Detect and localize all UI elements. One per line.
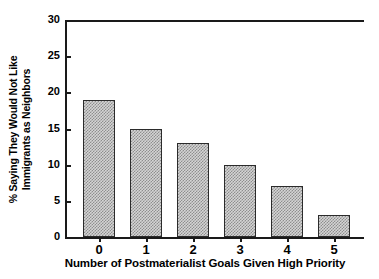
x-axis-title: Number of Postmaterialist Goals Given Hi… (40, 256, 370, 270)
y-tick-mark (65, 165, 71, 167)
bar-3 (224, 165, 256, 237)
bar-chart-figure: % Saying They Would Not Like Immigrants … (0, 0, 379, 279)
y-tick-mark (65, 20, 71, 22)
y-tick-mark (65, 201, 71, 203)
y-tick-mark (65, 92, 71, 94)
y-tick-mark (65, 129, 71, 131)
y-tick-mark (65, 237, 71, 239)
axis-spine-bottom (65, 237, 364, 239)
y-tick-label: 30 (48, 13, 60, 26)
bar-1 (130, 129, 162, 238)
bar-0 (83, 100, 115, 237)
y-tick-label: 15 (48, 122, 60, 135)
y-tick-label: 5 (54, 194, 60, 207)
y-axis-title-line-2: Immigrants as Neighbors (20, 55, 33, 203)
y-axis-title-line-1: % Saying They Would Not Like (8, 55, 21, 203)
y-tick-mark (65, 56, 71, 58)
y-tick-label: 25 (48, 49, 60, 62)
y-tick-label: 20 (48, 85, 60, 98)
bar-5 (318, 215, 350, 237)
y-tick-label: 0 (54, 230, 60, 243)
y-tick-label: 10 (48, 158, 60, 171)
bar-4 (271, 186, 303, 237)
axis-spine-top (65, 20, 364, 22)
y-axis-title: % Saying They Would Not Like Immigrants … (0, 0, 40, 258)
bar-2 (177, 143, 209, 237)
plot-area: 051015202530 012345 (65, 20, 364, 239)
